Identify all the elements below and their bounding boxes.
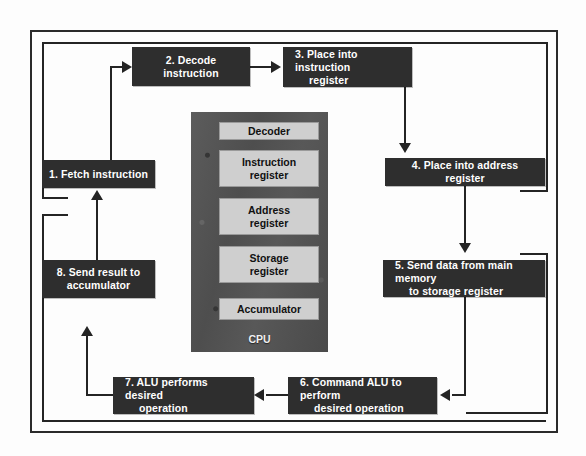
step-8-label-line1: 8. Send result to xyxy=(57,266,140,278)
register-accumulator-label: Accumulator xyxy=(237,303,301,316)
connector-step4-to-step5 xyxy=(464,186,466,244)
register-instruction-register[interactable]: Instruction register xyxy=(219,150,319,187)
connector-right-outer-vertical xyxy=(546,42,548,192)
register-instruction-register-label-line2: register xyxy=(250,169,289,182)
step-6-label-line1: 6. Command ALU to perform xyxy=(300,376,402,401)
connector-right-top-rail xyxy=(502,42,548,44)
step-7-label-line2: operation xyxy=(125,402,248,415)
step-1-label: 1. Fetch instruction xyxy=(49,168,148,181)
register-storage-register-label-line2: register xyxy=(250,265,289,278)
step-8-box[interactable]: 8. Send result to accumulator xyxy=(42,260,155,298)
register-storage-register-label-line1: Storage xyxy=(249,252,288,265)
connector-step3-to-step4 xyxy=(404,87,406,145)
connector-step6-to-step7 xyxy=(266,394,290,396)
diagram-canvas: 1. Fetch instruction 2. Decode instructi… xyxy=(0,0,586,456)
step-3-label: 3. Place into instruction register xyxy=(295,48,406,87)
arrowhead-into-step5 xyxy=(459,243,471,253)
arrowhead-into-step6 xyxy=(440,389,450,401)
step-3-label-line1: 3. Place into instruction xyxy=(295,48,358,73)
step-3-box[interactable]: 3. Place into instruction register xyxy=(283,47,412,87)
register-decoder-label: Decoder xyxy=(248,125,290,138)
connector-top-rail xyxy=(42,42,502,44)
step-6-box[interactable]: 6. Command ALU to perform desired operat… xyxy=(288,377,437,414)
register-storage-register[interactable]: Storage register xyxy=(219,246,319,283)
register-instruction-register-label-line1: Instruction xyxy=(242,156,296,169)
arrowhead-into-step2 xyxy=(122,61,132,73)
connector-step8-to-step1 xyxy=(96,200,98,260)
step-5-label: 5. Send data from main memory to storage… xyxy=(395,259,539,298)
connector-bottom-rail xyxy=(42,420,546,422)
register-accumulator[interactable]: Accumulator xyxy=(219,298,319,320)
step-8-label: 8. Send result to accumulator xyxy=(57,266,140,292)
step-1-box[interactable]: 1. Fetch instruction xyxy=(42,160,155,188)
connector-step1-to-step2-riser xyxy=(110,66,112,160)
step-2-box[interactable]: 2. Decode instruction xyxy=(132,47,250,86)
connector-step5-to-step6-horizontal xyxy=(452,394,466,396)
register-address-register[interactable]: Address register xyxy=(219,198,319,235)
connector-left-stub-lower xyxy=(42,214,68,216)
cpu-block: Decoder Instruction register Address reg… xyxy=(191,112,328,352)
step-8-label-line2: accumulator xyxy=(57,279,140,292)
step-7-label: 7. ALU performs desired operation xyxy=(125,376,248,415)
step-5-box[interactable]: 5. Send data from main memory to storage… xyxy=(383,260,545,297)
connector-left-outer-vertical xyxy=(42,214,44,422)
step-3-label-line2: register xyxy=(295,74,406,87)
arrowhead-into-step4 xyxy=(399,143,411,153)
connector-step5-to-step6-vertical xyxy=(464,297,466,396)
step-2-label: 2. Decode instruction xyxy=(138,54,244,80)
step-7-label-line1: 7. ALU performs desired xyxy=(125,376,208,401)
step-4-box[interactable]: 4. Place into address register xyxy=(385,158,545,186)
step-5-label-line1: 5. Send data from main memory xyxy=(395,259,513,284)
register-address-register-label-line1: Address xyxy=(248,204,290,217)
arrowhead-into-step1 xyxy=(91,190,103,200)
step-6-label: 6. Command ALU to perform desired operat… xyxy=(300,376,431,415)
connector-right-lower-bottom-stub xyxy=(466,412,548,414)
step-5-label-line2: to storage register xyxy=(395,285,539,298)
connector-left-stub-upper xyxy=(42,197,68,199)
step-6-label-line2: desired operation xyxy=(300,402,431,415)
connector-step7-to-step8-vertical xyxy=(86,336,88,396)
step-4-label: 4. Place into address register xyxy=(391,159,539,185)
arrowhead-into-step3 xyxy=(271,61,281,73)
connector-step2-to-step3 xyxy=(250,66,272,68)
step-7-box[interactable]: 7. ALU performs desired operation xyxy=(113,377,254,414)
connector-right-stub-to-step4 xyxy=(520,190,548,192)
cpu-label: CPU xyxy=(191,333,328,345)
connector-step7-to-step8-horizontal xyxy=(86,394,114,396)
register-address-register-label-line2: register xyxy=(250,217,289,230)
arrowhead-into-step7 xyxy=(254,389,264,401)
arrowhead-into-step8 xyxy=(81,326,93,336)
connector-right-lower-vertical xyxy=(546,253,548,414)
connector-right-lower-top-stub xyxy=(520,253,548,255)
register-decoder[interactable]: Decoder xyxy=(219,122,319,140)
